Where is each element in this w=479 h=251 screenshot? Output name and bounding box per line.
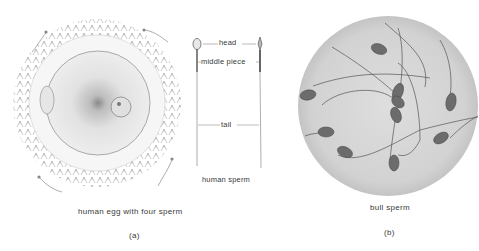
nucleus <box>111 97 131 117</box>
polar-body <box>40 86 54 114</box>
panel-label-a: (a) <box>129 231 140 240</box>
bull-sperm-micrograph <box>298 16 478 196</box>
human-sperm-caption: human sperm <box>202 175 250 184</box>
human-egg-caption: human egg with four sperm <box>78 207 182 216</box>
panel-label-b: (b) <box>384 228 395 237</box>
bull-sperm-caption: bull sperm <box>370 203 410 212</box>
label-tail: tail <box>221 120 231 129</box>
label-head: head <box>219 38 237 47</box>
label-middle-piece: middle piece <box>201 57 246 66</box>
figure-artwork <box>0 0 479 251</box>
human-egg-illustration <box>13 19 181 192</box>
